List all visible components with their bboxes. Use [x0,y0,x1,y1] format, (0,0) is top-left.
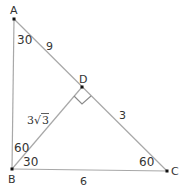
length-ad-label: 9 [46,40,53,53]
point-c-label: C [171,165,179,178]
point-d-label: D [79,73,87,86]
point-a-label: A [10,4,18,17]
radical-icon: √ [34,114,42,127]
right-angle-marker [74,96,91,104]
angle-c-label: 60 [139,155,154,169]
angle-a-label: 30 [17,33,32,47]
length-bc-label: 6 [80,175,87,188]
segment-ac [14,19,167,171]
length-bd-rad: 3 [42,114,49,127]
point-a-dot [13,18,16,21]
point-b-dot [11,168,14,171]
segment-bc [12,169,167,171]
triangle-diagram: A B C D 9 3 6 3 √ 3 30 60 30 60 [0,0,183,188]
length-dc-label: 3 [119,109,126,122]
angle-b-lower-label: 30 [23,155,38,169]
angle-b-upper-label: 60 [14,141,29,155]
point-c-dot [166,170,169,173]
length-bd-coef: 3 [27,114,34,127]
point-b-label: B [8,173,16,186]
